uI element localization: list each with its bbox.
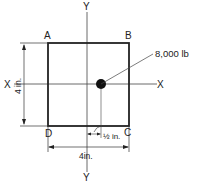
- load-leader-line: [101, 54, 153, 84]
- corner-label-a: A: [44, 30, 51, 41]
- corner-label-d: D: [45, 128, 52, 139]
- load-label: 8,000 lb: [155, 48, 189, 59]
- width-dimension-label: 4in.: [79, 151, 93, 161]
- arrow-left-icon: [48, 145, 54, 149]
- plate-diagram: A B C D Y Y X X 8,000 lb 4 in. 4in. ½ in…: [0, 0, 201, 183]
- arrow-up-icon: [22, 44, 26, 50]
- corner-label-b: B: [125, 30, 132, 41]
- y-axis-label-bottom: Y: [83, 172, 90, 183]
- height-dimension-label: 4 in.: [13, 78, 23, 94]
- arrow-right-icon: [123, 145, 129, 149]
- offset-arrow-right-icon: [97, 133, 101, 136]
- offset-arrow-left-icon: [87, 133, 91, 136]
- y-axis-label-top: Y: [83, 1, 90, 12]
- arrow-down-icon: [22, 119, 26, 125]
- corner-label-c: C: [124, 127, 131, 138]
- plate-square: [48, 43, 129, 126]
- x-axis-label-right: X: [157, 79, 164, 90]
- x-axis-label-left: X: [4, 79, 11, 90]
- offset-dimension-label: ½ in.: [103, 132, 120, 141]
